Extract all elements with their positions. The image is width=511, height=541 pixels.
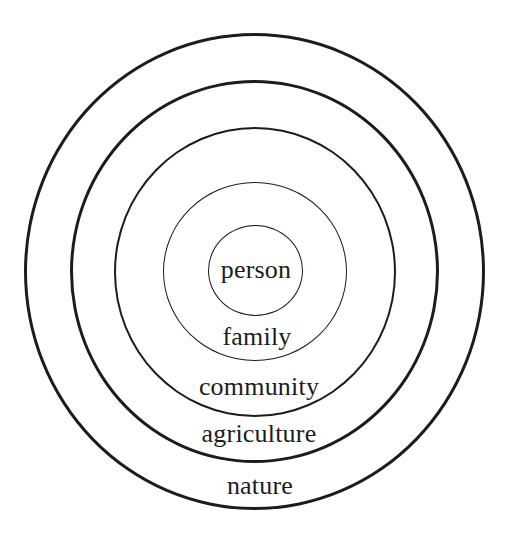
ring-label-person: person: [221, 257, 292, 283]
ring-label-agriculture: agriculture: [202, 421, 317, 447]
concentric-rings-diagram: nature agriculture community family pers…: [0, 0, 511, 541]
ring-label-family: family: [222, 324, 291, 350]
ring-label-nature: nature: [227, 473, 293, 499]
ring-label-community: community: [199, 374, 319, 400]
